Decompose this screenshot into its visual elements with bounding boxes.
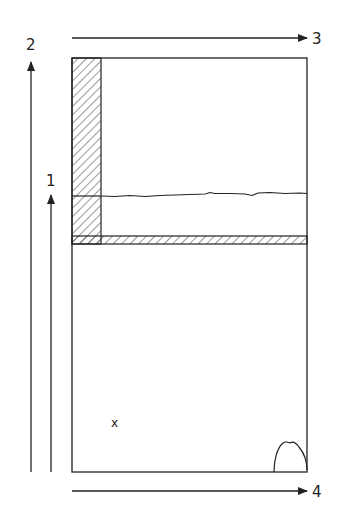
dome-shape (274, 442, 307, 472)
hatched-horizontal-band (72, 236, 307, 244)
wavy-boundary-line (101, 193, 307, 197)
main-rectangle (72, 58, 307, 472)
arrow-3: 3 (72, 30, 322, 48)
arrow-1: 1 (46, 172, 56, 472)
arrow-4-label: 4 (312, 483, 322, 501)
arrow-4: 4 (72, 483, 322, 501)
arrow-1-label: 1 (46, 172, 56, 190)
arrow-3-label: 3 (312, 30, 322, 48)
diagram-canvas: 2 1 3 4 x (0, 0, 337, 521)
hatched-vertical-strip (72, 58, 101, 244)
arrow-2: 2 (26, 36, 36, 472)
arrow-2-label: 2 (26, 36, 36, 54)
point-marker-x: x (111, 416, 118, 430)
